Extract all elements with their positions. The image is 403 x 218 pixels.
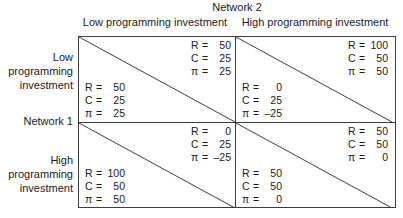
- row-header-title: Network 1: [0, 115, 73, 128]
- equals-sign: =: [357, 125, 367, 138]
- payoff-upper-network2: R=50 C=25 π=25: [191, 39, 231, 78]
- equals-sign: =: [200, 138, 210, 151]
- row-header-0-line-0: Low: [53, 51, 73, 63]
- revenue-value: 100: [367, 39, 388, 52]
- equals-sign: =: [251, 193, 261, 206]
- equals-sign: =: [357, 138, 367, 151]
- payoff-cost-row: C=50: [348, 138, 388, 151]
- payoff-revenue-row: R=50: [191, 39, 231, 52]
- profit-value: –25: [210, 151, 231, 164]
- revenue-symbol: R: [85, 81, 94, 94]
- equals-sign: =: [357, 65, 367, 78]
- payoff-upper-network2: R=100 C=50 π=50: [348, 39, 388, 78]
- cost-symbol: C: [348, 138, 357, 151]
- payoff-profit-row: π=25: [85, 107, 125, 120]
- payoff-cost-row: C=25: [85, 94, 125, 107]
- row-header-1-line-2: investment: [20, 182, 73, 194]
- cost-symbol: C: [85, 180, 94, 193]
- payoff-profit-row: π=25: [191, 65, 231, 78]
- equals-sign: =: [251, 94, 261, 107]
- row-header-low-programming-investment: Low programming investment: [0, 50, 73, 92]
- equals-sign: =: [94, 167, 104, 180]
- cost-value: 50: [367, 138, 388, 151]
- payoff-profit-row: π=0: [242, 193, 282, 206]
- equals-sign: =: [200, 125, 210, 138]
- payoff-upper-network2: R=0 C=25 π=–25: [191, 125, 231, 164]
- matrix-cell-low-low[interactable]: R=50 C=25 π=25 R=50 C=25 π=25: [79, 37, 235, 122]
- matrix-cell-low-high[interactable]: R=100 C=50 π=50 R=0 C=25 π=–25: [236, 37, 392, 122]
- cost-symbol: C: [191, 52, 200, 65]
- revenue-symbol: R: [85, 167, 94, 180]
- row-header-1-line-0: High: [50, 154, 73, 166]
- payoff-profit-row: π=50: [348, 65, 388, 78]
- payoff-upper-network2: R=50 C=50 π=0: [348, 125, 388, 164]
- profit-value: 50: [104, 193, 125, 206]
- profit-symbol: π: [85, 193, 94, 206]
- payoff-lower-network1: R=50 C=25 π=25: [85, 81, 125, 120]
- column-header-title: Network 2: [78, 1, 396, 14]
- profit-value: 25: [210, 65, 231, 78]
- revenue-symbol: R: [191, 125, 200, 138]
- profit-symbol: π: [85, 107, 94, 120]
- payoff-revenue-row: R=50: [242, 167, 282, 180]
- equals-sign: =: [357, 151, 367, 164]
- row-header-high-programming-investment: High programming investment: [0, 153, 73, 195]
- cost-value: 25: [261, 94, 282, 107]
- cost-symbol: C: [242, 94, 251, 107]
- matrix-cell-high-high[interactable]: R=50 C=50 π=0 R=50 C=50 π=0: [236, 123, 392, 208]
- cost-symbol: C: [85, 94, 94, 107]
- equals-sign: =: [94, 193, 104, 206]
- revenue-symbol: R: [242, 81, 251, 94]
- payoff-revenue-row: R=50: [348, 125, 388, 138]
- revenue-value: 50: [367, 125, 388, 138]
- revenue-value: 50: [261, 167, 282, 180]
- profit-symbol: π: [191, 65, 200, 78]
- equals-sign: =: [94, 81, 104, 94]
- profit-value: 50: [367, 65, 388, 78]
- equals-sign: =: [357, 52, 367, 65]
- payoff-cost-row: C=25: [191, 52, 231, 65]
- revenue-value: 0: [261, 81, 282, 94]
- payoff-cost-row: C=25: [191, 138, 231, 151]
- payoff-revenue-row: R=50: [85, 81, 125, 94]
- revenue-value: 0: [210, 125, 231, 138]
- row-header-1-line-1: programming: [8, 168, 73, 180]
- column-header-high-programming-investment: High programming investment: [234, 16, 396, 29]
- cost-value: 50: [367, 52, 388, 65]
- matrix-cell-high-low[interactable]: R=0 C=25 π=–25 R=100 C=50 π=50: [79, 123, 235, 208]
- payoff-matrix: R=50 C=25 π=25 R=50 C=25 π=25: [78, 36, 396, 208]
- cost-value: 25: [210, 52, 231, 65]
- profit-symbol: π: [242, 107, 251, 120]
- row-header-0-line-1: programming: [8, 65, 73, 77]
- cost-value: 50: [261, 180, 282, 193]
- equals-sign: =: [200, 151, 210, 164]
- row-header-0-line-2: investment: [20, 79, 73, 91]
- cost-value: 25: [104, 94, 125, 107]
- profit-value: –25: [261, 107, 282, 120]
- payoff-cost-row: C=50: [242, 180, 282, 193]
- equals-sign: =: [94, 107, 104, 120]
- cost-symbol: C: [191, 138, 200, 151]
- payoff-lower-network1: R=0 C=25 π=–25: [242, 81, 282, 120]
- payoff-cost-row: C=50: [348, 52, 388, 65]
- revenue-symbol: R: [348, 125, 357, 138]
- equals-sign: =: [200, 52, 210, 65]
- payoff-revenue-row: R=100: [85, 167, 125, 180]
- revenue-value: 100: [104, 167, 125, 180]
- profit-value: 0: [367, 151, 388, 164]
- revenue-value: 50: [210, 39, 231, 52]
- payoff-cost-row: C=25: [242, 94, 282, 107]
- equals-sign: =: [94, 180, 104, 193]
- cost-value: 25: [210, 138, 231, 151]
- payoff-profit-row: π=–25: [191, 151, 231, 164]
- profit-symbol: π: [348, 65, 357, 78]
- equals-sign: =: [251, 167, 261, 180]
- payoff-profit-row: π=0: [348, 151, 388, 164]
- revenue-symbol: R: [191, 39, 200, 52]
- payoff-revenue-row: R=0: [191, 125, 231, 138]
- equals-sign: =: [357, 39, 367, 52]
- payoff-revenue-row: R=0: [242, 81, 282, 94]
- profit-value: 25: [104, 107, 125, 120]
- equals-sign: =: [251, 180, 261, 193]
- cost-symbol: C: [348, 52, 357, 65]
